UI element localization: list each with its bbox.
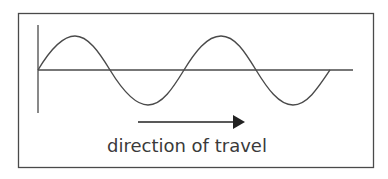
direction-arrow bbox=[138, 115, 245, 129]
caption: direction of travel bbox=[107, 135, 267, 156]
wave-diagram: direction of travel bbox=[0, 0, 388, 179]
arrow-head-icon bbox=[233, 115, 245, 129]
